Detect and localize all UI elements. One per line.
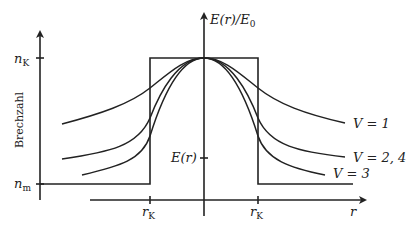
field-axis-label: E(r)/E0: [209, 12, 256, 29]
rk-right-label: rK: [250, 204, 263, 221]
r-axis-label: r: [350, 204, 357, 219]
nk-label: nK: [14, 51, 29, 68]
step-index-profile: [40, 58, 353, 184]
nm-label: nm: [14, 176, 31, 193]
fiber-mode-diagram: nK nm Brechzahl E(r)/E0 E(r) rK rK r V =…: [0, 0, 406, 226]
curve-label-v3: V = 3: [333, 166, 370, 181]
rk-left-label: rK: [142, 204, 155, 221]
y-axis-label: Brechzahl: [13, 91, 26, 148]
field-tick-label: E(r): [170, 150, 197, 165]
curve-label-v24: V = 2, 4: [353, 150, 406, 165]
curve-label-v1: V = 1: [353, 116, 390, 131]
